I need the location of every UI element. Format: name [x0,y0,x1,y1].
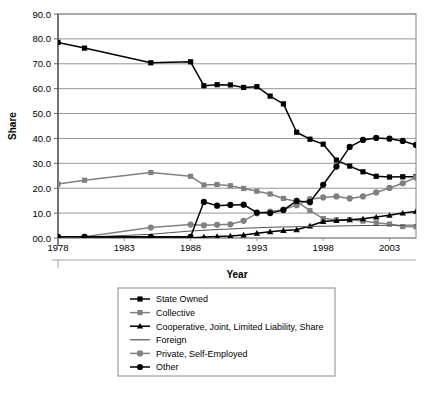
data-point [228,183,233,188]
y-axis-tick-label: 10.0 [33,208,52,219]
y-axis-tick-label: 70.0 [33,58,52,69]
x-axis-tick-label: 1983 [114,242,135,253]
data-point [188,174,193,179]
data-point [227,202,233,208]
chart-figure: 90.080.070.060.050.040.030.020.010.000.0… [0,0,431,400]
data-point [254,84,259,89]
data-point [81,234,87,240]
data-point [307,208,312,213]
legend-box [118,288,335,376]
data-point [320,182,326,188]
data-point [148,60,153,65]
data-point [386,136,392,142]
y-axis-tick-label: 20.0 [33,183,52,194]
data-point [373,189,379,195]
data-point [201,83,206,88]
legend-item-label: State Owned [156,294,208,304]
data-point [281,101,286,106]
data-point [148,170,153,175]
data-point [347,163,352,168]
data-point [413,142,419,148]
data-point [294,130,299,135]
y-axis-title: Share [7,112,18,140]
legend-item-label: Private, Self-Employed [156,349,248,359]
y-axis-tick-label: 80.0 [33,33,52,44]
x-axis-tick-label: 1993 [246,242,267,253]
data-point [267,210,273,216]
data-point [215,182,220,187]
data-point [280,207,286,213]
line-chart: 90.080.070.060.050.040.030.020.010.000.0… [0,0,431,400]
data-point [241,218,247,224]
data-point [82,45,87,50]
x-axis-tick-label: 1978 [47,242,68,253]
data-point [413,174,419,180]
y-axis-tick-label: 90.0 [33,9,52,20]
data-point [137,350,143,356]
data-point [241,85,246,90]
data-point [373,135,379,141]
data-point [360,193,366,199]
data-point [334,157,339,162]
legend-item-label: Other [156,362,179,372]
data-point [227,221,233,227]
data-point [214,222,220,228]
data-point [400,174,405,179]
data-point [268,94,273,99]
data-point [214,203,220,209]
data-point [320,194,326,200]
data-point [148,234,154,240]
data-point [333,163,339,169]
x-axis-tick-label: 2003 [379,242,400,253]
data-point [254,189,259,194]
data-point [241,202,247,208]
data-point [360,137,366,143]
x-axis-title: Year [226,269,247,280]
data-point [268,191,273,196]
data-point [307,199,313,205]
data-point [281,196,286,201]
data-point [307,137,312,142]
legend-item-label: Cooperative, Joint, Limited Liability, S… [156,322,323,332]
data-point [137,364,143,370]
data-point [201,222,207,228]
y-axis-tick-label: 50.0 [33,108,52,119]
y-axis-tick-label: 30.0 [33,158,52,169]
data-point [347,195,353,201]
data-point [241,186,246,191]
data-point [333,193,339,199]
data-point [201,199,207,205]
x-axis-tick-label: 1998 [313,242,334,253]
data-point [137,310,142,315]
data-point [55,181,60,186]
y-axis-tick-label: 40.0 [33,133,52,144]
data-point [374,220,379,225]
data-point [148,224,154,230]
data-point [386,185,392,191]
data-point [201,182,206,187]
data-point [228,82,233,87]
data-point [55,40,60,45]
data-point [374,174,379,179]
x-axis-tick-label: 1988 [180,242,201,253]
data-point [187,221,193,227]
data-point [347,144,353,150]
legend-item-label: Collective [156,308,195,318]
data-point [254,210,260,216]
data-point [400,138,406,144]
data-point [360,169,365,174]
data-point [294,198,300,204]
data-point [188,59,193,64]
data-point [137,296,142,301]
data-point [400,180,406,186]
y-axis-tick-label: 60.0 [33,83,52,94]
data-point [321,142,326,147]
data-point [387,174,392,179]
data-point [215,82,220,87]
data-point [82,178,87,183]
legend-item-label: Foreign [156,335,187,345]
